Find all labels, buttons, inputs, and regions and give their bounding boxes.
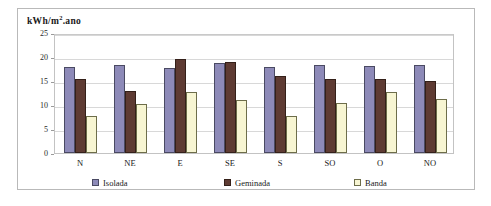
y-axis-tick-mark <box>51 154 54 155</box>
bar[interactable] <box>286 116 297 153</box>
bar[interactable] <box>336 103 347 153</box>
bar[interactable] <box>325 79 336 153</box>
y-axis-tick-label: 10 <box>24 102 48 110</box>
bar[interactable] <box>164 68 175 153</box>
y-axis-title-suffix: .ano <box>63 16 81 26</box>
bar[interactable] <box>214 63 225 153</box>
legend-swatch-icon <box>224 179 231 186</box>
legend-swatch-icon <box>354 179 361 186</box>
x-axis-tick-label: NE <box>105 159 155 168</box>
x-axis-tick-label: SE <box>205 159 255 168</box>
bar-group <box>255 35 305 153</box>
legend-label: Banda <box>365 178 387 188</box>
x-axis-tick-label: O <box>355 159 405 168</box>
y-axis-title-prefix: kWh/m <box>27 16 59 26</box>
plot-area: NNEESESSOONO <box>54 34 454 154</box>
bar[interactable] <box>75 79 86 153</box>
bar[interactable] <box>364 66 375 153</box>
legend-item[interactable]: Geminada <box>224 178 270 188</box>
x-axis-tick-label: N <box>55 159 105 168</box>
bar[interactable] <box>114 65 125 153</box>
y-axis-tick-label: 25 <box>24 30 48 38</box>
bar[interactable] <box>386 92 397 153</box>
bar[interactable] <box>236 100 247 153</box>
bar[interactable] <box>64 67 75 153</box>
bar[interactable] <box>186 92 197 153</box>
x-axis-tick-label: E <box>155 159 205 168</box>
x-axis-tick-label: S <box>255 159 305 168</box>
legend-item[interactable]: Isolada <box>92 178 128 188</box>
y-axis-tick-label: 20 <box>24 54 48 62</box>
bar[interactable] <box>175 59 186 153</box>
x-axis-tick-label: NO <box>405 159 455 168</box>
x-axis-tick-label: SO <box>305 159 355 168</box>
y-axis-tick-label: 15 <box>24 78 48 86</box>
bar[interactable] <box>264 67 275 153</box>
bar[interactable] <box>136 104 147 153</box>
bar-group <box>405 35 455 153</box>
bar[interactable] <box>414 65 425 153</box>
chart-legend: IsoladaGeminadaBanda <box>54 176 460 189</box>
y-axis-tick-label: 5 <box>24 126 48 134</box>
bar-group <box>355 35 405 153</box>
bar[interactable] <box>314 65 325 153</box>
bar[interactable] <box>86 116 97 153</box>
bar[interactable] <box>275 76 286 153</box>
bar-group <box>55 35 105 153</box>
legend-swatch-icon <box>92 179 99 186</box>
bar-group <box>105 35 155 153</box>
y-axis-tick-label: 0 <box>24 150 48 158</box>
bar[interactable] <box>425 81 436 153</box>
bar[interactable] <box>125 91 136 153</box>
bar-group <box>305 35 355 153</box>
chart-figure: kWh/m2.ano 2520151050 NNEESESSOONO Isola… <box>17 8 475 190</box>
bar[interactable] <box>225 62 236 153</box>
bar-group <box>205 35 255 153</box>
legend-label: Geminada <box>235 178 270 188</box>
legend-label: Isolada <box>103 178 128 188</box>
bar[interactable] <box>436 99 447 153</box>
bar-group <box>155 35 205 153</box>
y-axis-title: kWh/m2.ano <box>27 14 81 26</box>
legend-item[interactable]: Banda <box>354 178 387 188</box>
bar[interactable] <box>375 79 386 153</box>
